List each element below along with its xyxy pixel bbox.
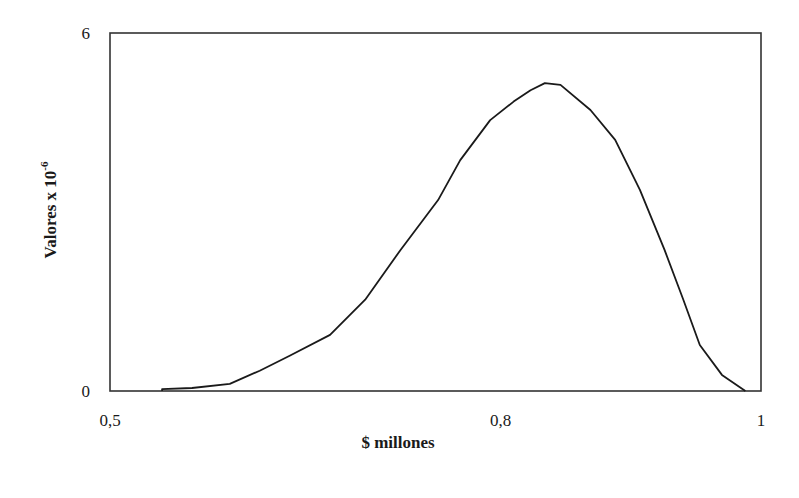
y-axis-title-base: Valores x 10: [41, 171, 60, 259]
x-tick-label: 0,5: [99, 411, 120, 430]
x-axis-ticks: 0,50,81: [99, 411, 765, 430]
density-curve: [162, 83, 745, 391]
y-tick-label: 0: [82, 382, 91, 401]
y-axis-title: Valores x 10-6: [38, 161, 60, 259]
chart: 0,50,81 06 $ millones Valores x 10-6: [0, 0, 799, 498]
plot-area-frame: [110, 33, 761, 391]
y-tick-label: 6: [82, 24, 91, 43]
x-axis-title: $ millones: [361, 433, 435, 452]
x-tick-label: 1: [757, 411, 766, 430]
y-axis-ticks: 06: [82, 24, 91, 401]
x-tick-label: 0,8: [490, 411, 511, 430]
y-axis-title-exponent: -6: [38, 161, 50, 171]
